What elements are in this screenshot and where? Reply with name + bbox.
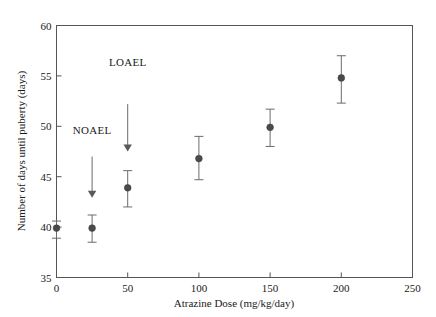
- data-marker: [89, 225, 96, 232]
- x-tick-label: 50: [122, 282, 134, 294]
- x-axis-title: Atrazine Dose (mg/kg/day): [174, 297, 295, 310]
- chart-container: 354045505560 050100150200250 NOAELLOAEL …: [0, 0, 436, 317]
- data-marker: [267, 124, 274, 131]
- x-tick-label: 200: [333, 282, 350, 294]
- data-marker: [338, 75, 345, 82]
- y-tick-label: 60: [41, 20, 53, 32]
- y-tick-label: 50: [41, 120, 53, 132]
- x-tick-label: 250: [404, 282, 421, 294]
- data-marker: [53, 225, 60, 232]
- data-marker: [196, 155, 203, 162]
- y-axis-title: Number of days until puberty (days): [15, 70, 28, 231]
- y-tick-label: 40: [41, 221, 53, 233]
- chart-background: [0, 0, 436, 317]
- y-tick-label: 45: [41, 171, 53, 183]
- annotation-label: LOAEL: [109, 56, 147, 68]
- atrazine-puberty-scatter-chart: 354045505560 050100150200250 NOAELLOAEL …: [0, 0, 436, 317]
- data-marker: [124, 184, 131, 191]
- x-tick-label: 150: [262, 282, 279, 294]
- x-tick-label: 100: [191, 282, 208, 294]
- annotation-label: NOAEL: [73, 124, 112, 136]
- y-tick-label: 55: [41, 70, 53, 82]
- x-tick-label: 0: [54, 282, 60, 294]
- y-tick-label: 35: [41, 272, 53, 284]
